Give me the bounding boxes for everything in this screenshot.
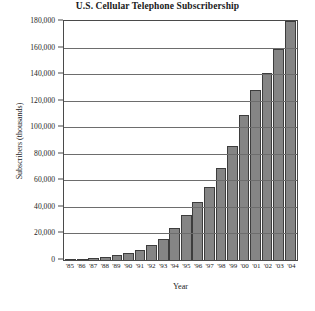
y-tick-label: 180,000: [30, 16, 55, 25]
y-tick-label: 20,000: [34, 228, 55, 237]
bar[interactable]: [239, 115, 250, 260]
gridline: [64, 48, 297, 49]
x-tick-label: '89: [111, 262, 123, 270]
x-tick-label: '98: [216, 262, 228, 270]
gridline: [64, 154, 297, 155]
plot-area: [63, 20, 298, 261]
bar[interactable]: [285, 21, 296, 260]
x-tick-label: '99: [227, 262, 239, 270]
bar[interactable]: [216, 168, 227, 260]
y-tick-label: 140,000: [30, 69, 55, 78]
y-axis-title: Subscribers (thousands): [15, 66, 24, 216]
bar-chart: U.S. Cellular Telephone Subscribership S…: [0, 0, 315, 311]
x-tick-label: '86: [76, 262, 88, 270]
bar[interactable]: [112, 255, 123, 260]
gridline: [64, 233, 297, 234]
gridline: [64, 74, 297, 75]
bar[interactable]: [146, 245, 157, 260]
gridline: [64, 127, 297, 128]
x-tick-label: '87: [87, 262, 99, 270]
bar[interactable]: [123, 253, 134, 260]
y-tick-label: 0: [51, 255, 55, 264]
y-tick-label: 160,000: [30, 42, 55, 51]
y-tick-label: 60,000: [34, 175, 55, 184]
x-tick-label: '92: [146, 262, 158, 270]
x-tick-label: '04: [285, 262, 297, 270]
bar-series: [64, 21, 297, 260]
x-tick-label: '94: [169, 262, 181, 270]
bar[interactable]: [227, 146, 238, 260]
gridline: [64, 180, 297, 181]
x-tick-label: '97: [204, 262, 216, 270]
x-tick-label: '85: [64, 262, 76, 270]
chart-title: U.S. Cellular Telephone Subscribership: [0, 1, 315, 11]
x-tick-label: '90: [122, 262, 134, 270]
bar[interactable]: [100, 257, 111, 260]
x-axis: '85'86'87'88'89'90'91'92'93'94'95'96'97'…: [63, 262, 298, 270]
y-axis: Subscribers (thousands) 180,000160,00014…: [0, 20, 63, 261]
bar[interactable]: [135, 250, 146, 260]
x-tick-label: '93: [157, 262, 169, 270]
x-tick-label: '00: [239, 262, 251, 270]
bar[interactable]: [158, 239, 169, 260]
x-tick-label: '02: [262, 262, 274, 270]
gridline: [64, 207, 297, 208]
x-tick-label: '91: [134, 262, 146, 270]
y-tick-label: 100,000: [30, 122, 55, 131]
x-tick-label: '96: [192, 262, 204, 270]
x-tick-label: '03: [274, 262, 286, 270]
x-tick-label: '01: [251, 262, 263, 270]
bar[interactable]: [204, 187, 215, 260]
x-tick-label: '95: [181, 262, 193, 270]
bar[interactable]: [181, 215, 192, 260]
y-tick-label: 40,000: [34, 201, 55, 210]
y-tick-label: 80,000: [34, 148, 55, 157]
bar[interactable]: [88, 258, 99, 260]
bar[interactable]: [65, 259, 76, 260]
bar[interactable]: [77, 259, 88, 260]
y-tick-label: 120,000: [30, 95, 55, 104]
bar[interactable]: [192, 202, 203, 260]
x-axis-title: Year: [63, 282, 298, 291]
gridline: [64, 101, 297, 102]
x-tick-label: '88: [99, 262, 111, 270]
